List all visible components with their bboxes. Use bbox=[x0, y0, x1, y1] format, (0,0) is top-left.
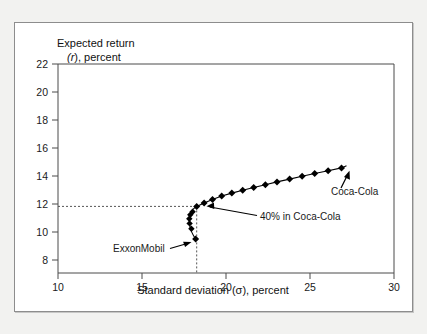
y-axis-title-line2: (r), percent bbox=[67, 51, 121, 63]
marker-point-17 bbox=[299, 173, 306, 180]
annotation-forty-percent-label: 40% in Coca-Cola bbox=[260, 211, 341, 222]
annotation-coca-cola: Coca-Cola bbox=[331, 171, 379, 197]
annotation-forty-percent: 40% in Coca-Cola bbox=[207, 203, 342, 222]
page-background: Expected return (r), percent Standard de… bbox=[0, 0, 427, 334]
marker-point-19 bbox=[325, 167, 332, 174]
marker-point-18 bbox=[311, 170, 318, 177]
marker-point-16 bbox=[286, 176, 293, 183]
marker-coca-cola bbox=[338, 164, 345, 171]
figure-frame: Expected return (r), percent Standard de… bbox=[14, 22, 413, 312]
y-tick-14: 14 bbox=[36, 170, 48, 182]
x-axis-tick-labels: 10 15 20 25 30 bbox=[52, 281, 400, 293]
marker-point-8 bbox=[201, 199, 208, 206]
data-point-markers bbox=[186, 164, 345, 242]
y-tick-10: 10 bbox=[36, 226, 48, 238]
marker-point-12 bbox=[239, 187, 246, 194]
marker-point-2 bbox=[188, 226, 194, 232]
marker-point-15 bbox=[274, 178, 281, 185]
y-axis-tick-labels: 22 20 18 16 14 12 10 8 bbox=[36, 58, 48, 266]
y-tick-22: 22 bbox=[36, 58, 48, 70]
marker-point-13 bbox=[250, 184, 257, 191]
efficient-frontier-chart: Expected return (r), percent Standard de… bbox=[15, 23, 412, 311]
x-tick-25: 25 bbox=[304, 281, 316, 293]
y-tick-16: 16 bbox=[36, 142, 48, 154]
y-tick-20: 20 bbox=[36, 86, 48, 98]
y-axis-title-line1: Expected return bbox=[57, 37, 135, 49]
marker-point-11 bbox=[228, 190, 235, 197]
y-tick-12: 12 bbox=[36, 198, 48, 210]
y-tick-18: 18 bbox=[36, 114, 48, 126]
annotation-exxonmobil: ExxonMobil bbox=[113, 242, 192, 254]
annotation-coca-cola-label: Coca-Cola bbox=[331, 186, 379, 197]
x-tick-20: 20 bbox=[220, 281, 232, 293]
y-tick-8: 8 bbox=[42, 254, 48, 266]
marker-exxonmobil bbox=[192, 236, 199, 243]
marker-point-10 bbox=[218, 192, 225, 199]
x-tick-10: 10 bbox=[52, 281, 64, 293]
y-axis-ticks bbox=[52, 64, 58, 260]
x-axis-ticks bbox=[58, 273, 394, 279]
x-tick-15: 15 bbox=[136, 281, 148, 293]
x-axis-title: Standard deviation (σ), percent bbox=[137, 284, 289, 296]
marker-point-14 bbox=[262, 181, 269, 188]
annotation-exxonmobil-label: ExxonMobil bbox=[113, 243, 165, 254]
marker-point-9 bbox=[209, 196, 216, 203]
x-tick-30: 30 bbox=[388, 281, 400, 293]
